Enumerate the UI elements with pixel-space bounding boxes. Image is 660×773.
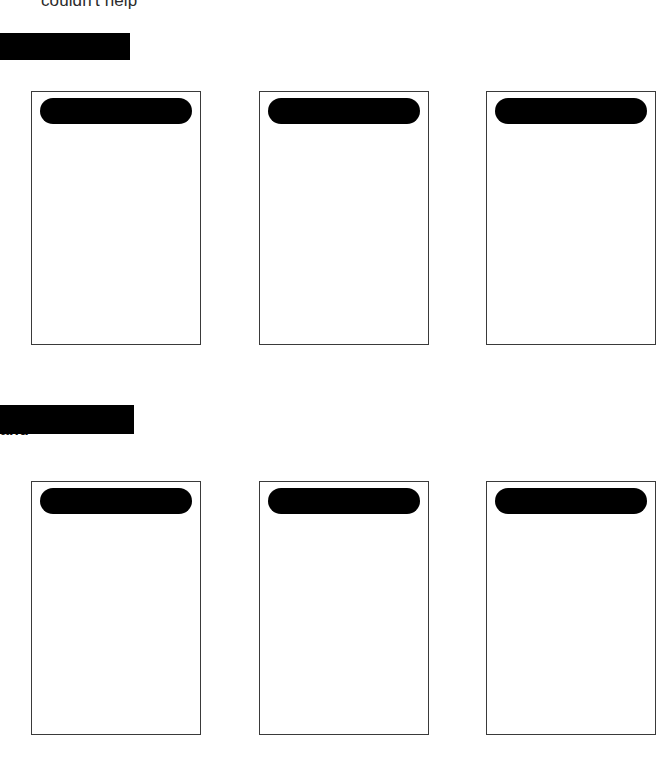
card-2-1[interactable] bbox=[31, 481, 201, 735]
section-heading-2-redaction bbox=[0, 405, 134, 434]
card-title-redaction bbox=[495, 488, 647, 514]
card-1-1[interactable] bbox=[31, 91, 201, 345]
card-title-redaction bbox=[40, 98, 192, 124]
card-1-2[interactable] bbox=[259, 91, 429, 345]
card-2-2[interactable] bbox=[259, 481, 429, 735]
running-text-line: couldn't help bbox=[41, 0, 137, 11]
card-1-3[interactable] bbox=[486, 91, 656, 345]
card-title-redaction bbox=[495, 98, 647, 124]
card-title-redaction bbox=[268, 488, 420, 514]
card-title-redaction bbox=[268, 98, 420, 124]
card-2-3[interactable] bbox=[486, 481, 656, 735]
section-heading-1-redaction bbox=[0, 33, 130, 60]
card-title-redaction bbox=[40, 488, 192, 514]
document-page: couldn't help st and bbox=[0, 0, 660, 773]
